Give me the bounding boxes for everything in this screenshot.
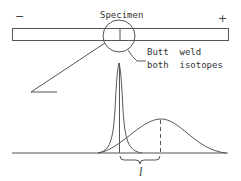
weld-circle xyxy=(103,20,135,52)
plus-sign: + xyxy=(218,13,227,24)
diagram-canvas: Specimen − + Butt weld both isotopes l xyxy=(0,0,241,181)
distance-brace xyxy=(120,156,160,164)
broad-peak-curve xyxy=(98,119,226,153)
weld-leader-line xyxy=(128,50,146,61)
diagram-drawing xyxy=(0,0,241,181)
weld-label-line1: Butt weld xyxy=(147,47,201,57)
minus-sign: − xyxy=(15,11,24,22)
specimen-label: Specimen xyxy=(100,10,143,20)
projection-line xyxy=(31,43,105,92)
weld-label-line2: both isotopes xyxy=(147,60,223,70)
distance-label: l xyxy=(139,166,142,178)
